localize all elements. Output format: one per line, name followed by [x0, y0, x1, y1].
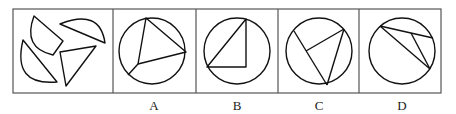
option-c-circle: [286, 18, 352, 84]
puzzle-frame: [13, 9, 441, 93]
option-b-label: B: [233, 98, 242, 113]
option-b-circle: [204, 18, 270, 84]
option-b-triangle: [207, 19, 246, 67]
option-d-chord: [380, 26, 430, 69]
option-a-chord: [128, 64, 138, 75]
option-d-circle: [369, 18, 435, 84]
option-a[interactable]: [119, 18, 186, 84]
semicircle-segment-piece: [60, 19, 105, 43]
option-d-label: D: [397, 98, 406, 113]
option-a-triangle: [138, 18, 186, 64]
option-a-label: A: [149, 98, 159, 113]
option-c[interactable]: [286, 18, 352, 85]
puzzle-figure: A B C D: [0, 0, 456, 114]
pieces-panel: [21, 16, 105, 86]
option-d[interactable]: [369, 18, 435, 84]
triangle-piece: [60, 46, 96, 86]
option-c-label: C: [315, 98, 324, 113]
circular-sector-piece: [31, 16, 63, 55]
option-b[interactable]: [204, 18, 270, 84]
option-d-chord: [411, 33, 430, 69]
circular-segment-piece: [21, 40, 57, 82]
